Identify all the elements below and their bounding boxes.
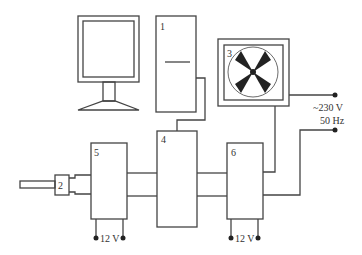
block-4 (157, 131, 197, 227)
label-3: 3 (227, 48, 232, 59)
terminal-dots (94, 93, 338, 241)
label-2: 2 (58, 180, 63, 191)
mains-freq-label: 50 Hz (320, 115, 345, 126)
wire-3-6 (263, 106, 275, 172)
label-6: 6 (231, 147, 236, 158)
fan-blades-icon (235, 51, 271, 93)
block-diagram: 1 2 3 4 5 6 ~230 V 50 Hz 12 V 12 V (0, 0, 362, 255)
monitor-icon (78, 16, 139, 110)
sensor-cable (20, 181, 55, 188)
wire-6-mains (263, 130, 335, 195)
label-1: 1 (160, 21, 165, 32)
mains-voltage-label: ~230 V (313, 102, 344, 113)
label-4: 4 (161, 134, 166, 145)
wire-1-4 (177, 78, 205, 131)
dc-6-label: 12 V (235, 233, 255, 244)
dc-5-label: 12 V (100, 233, 120, 244)
label-5: 5 (94, 147, 99, 158)
